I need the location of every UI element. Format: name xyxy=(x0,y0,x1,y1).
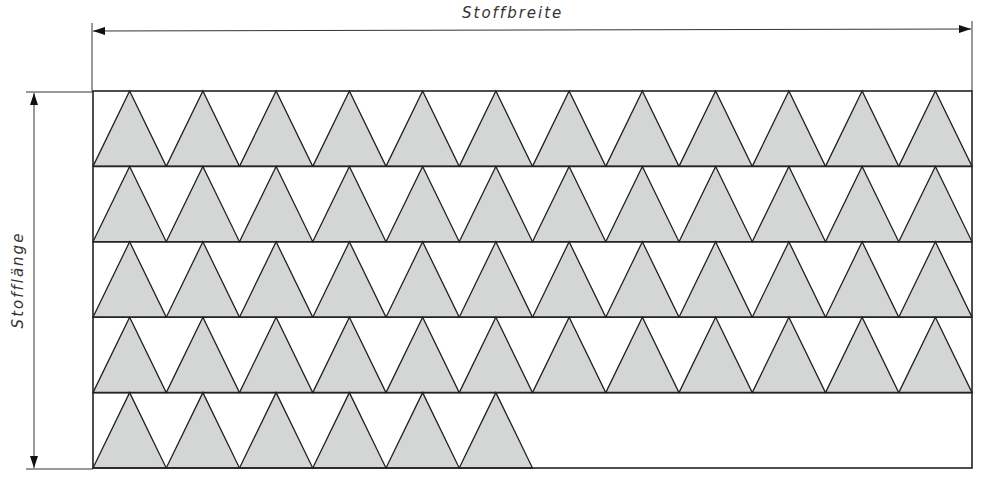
triangle-piece xyxy=(752,317,825,392)
triangle-piece xyxy=(533,166,606,241)
triangle-piece xyxy=(386,393,459,468)
triangle-piece xyxy=(533,242,606,317)
triangle-piece xyxy=(386,242,459,317)
triangle-piece xyxy=(459,166,532,241)
row-dividers xyxy=(93,166,972,392)
triangle-piece xyxy=(533,317,606,392)
triangle-piece xyxy=(313,317,386,392)
fabric-layout-diagram xyxy=(0,0,982,483)
triangle-piece xyxy=(826,166,899,241)
triangle-piece xyxy=(240,166,313,241)
triangle-piece xyxy=(826,242,899,317)
triangle-piece xyxy=(606,242,679,317)
triangle-piece xyxy=(313,393,386,468)
triangle-piece xyxy=(240,317,313,392)
triangle-piece xyxy=(459,242,532,317)
triangle-piece xyxy=(313,166,386,241)
triangle-piece xyxy=(93,317,166,392)
length-dimension xyxy=(26,92,93,469)
triangle-piece xyxy=(166,393,239,468)
triangle-piece xyxy=(752,242,825,317)
triangle-piece xyxy=(899,242,972,317)
triangle-piece xyxy=(386,166,459,241)
triangle-piece xyxy=(899,91,972,166)
triangle-piece xyxy=(166,91,239,166)
triangle-piece xyxy=(166,166,239,241)
triangle-piece xyxy=(166,242,239,317)
triangle-piece xyxy=(386,317,459,392)
triangle-piece xyxy=(606,91,679,166)
triangle-piece xyxy=(679,91,752,166)
triangle-piece xyxy=(313,91,386,166)
width-dimension-line xyxy=(93,29,971,31)
triangle-piece xyxy=(240,393,313,468)
width-label: Stoffbreite xyxy=(462,4,563,22)
triangle-piece xyxy=(386,91,459,166)
width-dimension xyxy=(92,21,972,91)
triangle-piece xyxy=(240,242,313,317)
triangle-piece xyxy=(752,166,825,241)
triangle-piece xyxy=(826,317,899,392)
length-label: Stofflänge xyxy=(9,232,27,329)
triangle-piece xyxy=(459,393,532,468)
triangle-piece xyxy=(679,166,752,241)
triangle-piece xyxy=(899,317,972,392)
triangle-piece xyxy=(533,91,606,166)
triangle-piece xyxy=(826,91,899,166)
triangle-piece xyxy=(606,317,679,392)
triangle-piece xyxy=(166,317,239,392)
triangle-piece xyxy=(240,91,313,166)
triangle-piece xyxy=(752,91,825,166)
triangle-piece xyxy=(93,393,166,468)
triangle-pieces xyxy=(93,91,972,468)
triangle-piece xyxy=(93,91,166,166)
triangle-piece xyxy=(606,166,679,241)
triangle-piece xyxy=(899,166,972,241)
triangle-piece xyxy=(93,166,166,241)
triangle-piece xyxy=(93,242,166,317)
triangle-piece xyxy=(679,242,752,317)
triangle-piece xyxy=(459,317,532,392)
triangle-piece xyxy=(459,91,532,166)
triangle-piece xyxy=(679,317,752,392)
triangle-piece xyxy=(313,242,386,317)
